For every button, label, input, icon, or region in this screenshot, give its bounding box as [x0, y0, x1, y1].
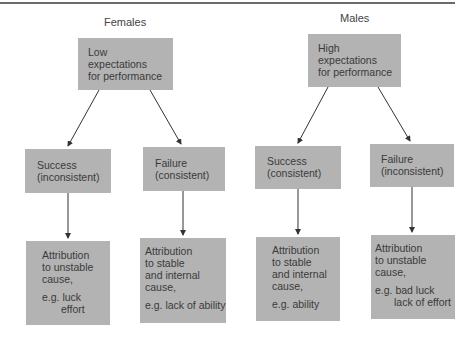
text-line: for performance — [318, 66, 401, 78]
text-line: cause, — [375, 266, 455, 278]
text-line: expectations — [318, 54, 401, 66]
text-line: Failure — [155, 157, 225, 169]
females-label: Females — [104, 16, 146, 28]
text-line: (consistent) — [155, 169, 225, 181]
text-line: (inconsistent) — [37, 171, 111, 183]
text-line: to unstable — [42, 261, 110, 273]
arrow-f-top-failure — [150, 90, 181, 144]
text-line: High — [318, 42, 401, 54]
example-line: e.g. bad luck — [375, 284, 455, 296]
text-line: Success — [267, 155, 341, 167]
females-success-box: Success (inconsistent) — [25, 149, 111, 193]
text-line: (inconsistent) — [381, 165, 454, 177]
males-expectations-box: High expectations for performance — [308, 34, 401, 87]
text-line: Low — [88, 46, 173, 58]
text-line: Attribution — [42, 249, 110, 261]
text-line: to stable — [272, 256, 340, 268]
text-line: to unstable — [375, 254, 455, 266]
males-label: Males — [340, 12, 369, 24]
text-line: for performance — [88, 70, 173, 82]
example-line: e.g. luck — [42, 291, 110, 303]
text-line: Attribution — [145, 245, 226, 257]
text-line: Attribution — [375, 242, 455, 254]
example-line: lack of effort — [375, 296, 455, 308]
example-line: e.g. lack of ability — [145, 299, 226, 311]
text-line: cause, — [145, 281, 226, 293]
text-line: expectations — [88, 58, 173, 70]
females-failure-attribution-box: Attribution to stable and internal cause… — [140, 238, 226, 323]
example-line: e.g. ability — [272, 298, 340, 310]
males-success-attribution-box: Attribution to stable and internal cause… — [256, 237, 340, 321]
females-failure-box: Failure (consistent) — [143, 147, 225, 191]
text-line: Attribution — [272, 244, 340, 256]
females-success-attribution-box: Attribution to unstable cause, e.g. luck… — [26, 241, 110, 325]
text-line: Success — [37, 159, 111, 171]
text-line: Failure — [381, 153, 454, 165]
males-success-box: Success (consistent) — [255, 146, 341, 189]
females-expectations-box: Low expectations for performance — [78, 38, 173, 90]
males-failure-box: Failure (inconsistent) — [370, 144, 454, 187]
example-line: effort — [42, 303, 110, 315]
arrow-m-top-failure — [378, 87, 410, 141]
arrow-f-top-success — [68, 90, 99, 146]
text-line: cause, — [42, 273, 110, 285]
text-line: and internal — [272, 268, 340, 280]
arrow-m-top-success — [298, 87, 328, 143]
text-line: (consistent) — [267, 167, 341, 179]
text-line: and internal — [145, 269, 226, 281]
text-line: to stable — [145, 257, 226, 269]
text-line: cause, — [272, 280, 340, 292]
males-failure-attribution-box: Attribution to unstable cause, e.g. bad … — [371, 235, 455, 319]
